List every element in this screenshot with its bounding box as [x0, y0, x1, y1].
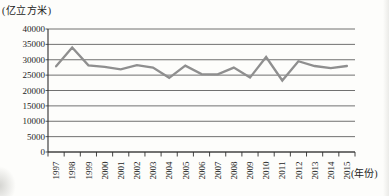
y-tick-label: 5000: [27, 132, 46, 142]
x-tick-label: 2001: [116, 162, 126, 180]
y-tick-label: 10000: [23, 116, 46, 126]
data-series-line: [56, 47, 347, 80]
x-tick-label: 2010: [261, 161, 271, 180]
x-tick-label: 2007: [213, 161, 223, 180]
x-tick-label: 2013: [310, 161, 320, 180]
x-tick-label: 2000: [100, 161, 110, 180]
x-tick-label: 2011: [277, 162, 287, 180]
y-tick-label: 30000: [23, 55, 46, 65]
y-tick-label: 20000: [23, 86, 46, 96]
x-tick-label: 2006: [197, 161, 207, 180]
y-tick-label: 0: [41, 147, 46, 157]
x-tick-label: 1997: [51, 161, 61, 180]
y-tick-label: 35000: [23, 39, 46, 49]
x-tick-label: 2008: [229, 161, 239, 180]
x-tick-label: 2002: [132, 162, 142, 180]
x-tick-label: 2014: [326, 161, 336, 180]
y-tick-label: 15000: [23, 101, 46, 111]
x-tick-label: 2003: [148, 161, 158, 180]
water-resources-line-chart-figure: (亿立方米) 050001000015000200002500030000350…: [0, 0, 389, 196]
y-tick-label: 40000: [23, 24, 46, 34]
x-tick-label: 2004: [164, 161, 174, 180]
x-tick-label: 1999: [84, 161, 94, 180]
x-tick-label: 2012: [294, 162, 304, 180]
line-chart-plot-area: 0500010000150002000025000300003500040000…: [0, 0, 389, 196]
x-tick-label: 2005: [181, 161, 191, 180]
x-axis-unit-label: (年份): [351, 165, 378, 180]
x-tick-label: 1998: [67, 161, 77, 180]
y-tick-label: 25000: [23, 70, 46, 80]
x-tick-label: 2009: [245, 161, 255, 180]
